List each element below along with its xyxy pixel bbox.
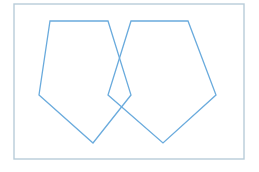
- figure-canvas: Two overlapping pentagons: [0, 0, 259, 172]
- figure-svg: Two overlapping pentagons: [0, 0, 259, 172]
